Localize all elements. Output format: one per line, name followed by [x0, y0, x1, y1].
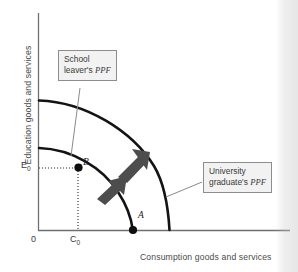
school-callout-leader-line: [71, 88, 80, 156]
point-b-label: B: [83, 157, 89, 167]
point-a-marker: [129, 226, 137, 234]
x-axis-title: Consumption goods and services: [140, 252, 272, 262]
university-graduate-ppf-curve: [39, 101, 170, 231]
university-callout-line1: University: [209, 166, 266, 177]
university-callout-ppf-abbr: PPF: [250, 177, 266, 187]
point-a-label: A: [138, 210, 144, 220]
x-tick-c0-subscript: 0: [77, 239, 81, 246]
university-graduate-ppf-callout: University graduate's PPF: [203, 162, 272, 193]
ppf-plot: [0, 0, 298, 272]
school-callout-line2: leaver's PPF: [64, 65, 111, 76]
university-callout-leader-line: [166, 182, 202, 197]
school-leaver-ppf-callout: School leaver's PPF: [58, 50, 117, 81]
ppf-figure: Education goods and services Consumption…: [0, 0, 298, 272]
origin-label: 0: [31, 234, 36, 244]
point-b-marker: [74, 163, 82, 171]
y-tick-e0-subscript: 0: [27, 165, 31, 172]
school-callout-line2-text: leaver's: [64, 65, 93, 75]
university-callout-line2: graduate's PPF: [209, 177, 266, 188]
school-callout-line1: School: [64, 54, 111, 65]
y-tick-e0: E0: [21, 160, 31, 172]
x-tick-c0: C0: [70, 234, 80, 246]
school-callout-ppf-abbr: PPF: [95, 65, 111, 75]
university-callout-line2-text: graduate's: [209, 177, 248, 187]
